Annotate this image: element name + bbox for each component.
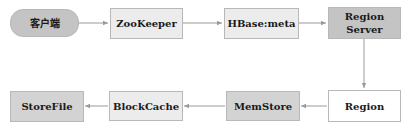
node-hbase-meta-label: HBase:meta	[227, 17, 295, 30]
node-region: Region	[328, 90, 401, 122]
node-hbase-meta: HBase:meta	[224, 8, 299, 39]
node-blockcache-label: BlockCache	[113, 100, 179, 113]
node-zookeeper-label: ZooKeeper	[116, 17, 176, 30]
node-storefile-label: StoreFile	[21, 100, 72, 113]
node-client-label: 客户端	[30, 17, 60, 30]
node-client: 客户端	[10, 9, 79, 37]
node-memstore: MemStore	[226, 91, 300, 121]
node-region-server: Region Server	[328, 7, 401, 39]
node-region-server-label-line1: Region	[345, 10, 384, 23]
node-zookeeper: ZooKeeper	[110, 8, 183, 39]
node-memstore-label: MemStore	[234, 100, 292, 113]
node-blockcache: BlockCache	[109, 91, 183, 121]
node-region-server-label-line2: Server	[346, 23, 382, 36]
node-storefile: StoreFile	[10, 91, 84, 122]
node-region-label: Region	[345, 100, 384, 113]
